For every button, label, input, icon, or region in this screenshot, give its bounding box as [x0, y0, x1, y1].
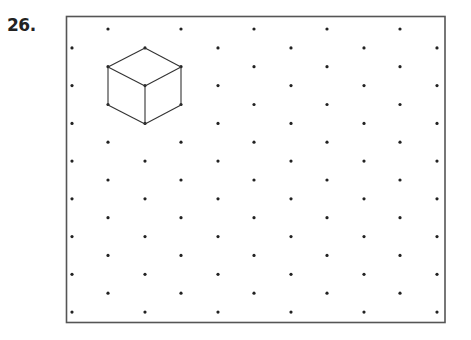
cube-edge	[145, 67, 181, 86]
grid-dot	[143, 311, 146, 314]
grid-dot	[70, 235, 73, 238]
grid-dot	[362, 46, 365, 49]
grid-dot	[216, 235, 219, 238]
grid-dot	[289, 273, 292, 276]
grid-dot	[289, 84, 292, 87]
grid-dot	[179, 292, 182, 295]
cube-edge	[145, 105, 181, 124]
grid-dot	[362, 84, 365, 87]
grid-dot	[252, 103, 255, 106]
grid-dot	[362, 235, 365, 238]
grid-dot	[70, 84, 73, 87]
grid-dot	[179, 141, 182, 144]
grid-dot	[435, 197, 438, 200]
grid-dot	[362, 160, 365, 163]
grid-dot	[143, 197, 146, 200]
grid-dot	[179, 27, 182, 30]
grid-dot	[398, 103, 401, 106]
grid-dot	[252, 141, 255, 144]
grid-dot	[70, 273, 73, 276]
grid-dot	[106, 254, 109, 257]
grid-dot	[289, 235, 292, 238]
grid-dot	[325, 103, 328, 106]
grid-dot	[325, 178, 328, 181]
grid-dot	[398, 292, 401, 295]
grid-dot	[289, 46, 292, 49]
grid-dot	[289, 160, 292, 163]
grid-dot	[216, 46, 219, 49]
grid-dot	[289, 311, 292, 314]
grid-dot	[252, 27, 255, 30]
grid-dot	[252, 292, 255, 295]
grid-dot	[325, 216, 328, 219]
grid-dot	[216, 197, 219, 200]
grid-dot	[398, 65, 401, 68]
grid-dot	[435, 273, 438, 276]
grid-dot	[252, 65, 255, 68]
grid-dot	[325, 27, 328, 30]
grid-dot	[362, 197, 365, 200]
isometric-dot-paper	[0, 0, 471, 340]
grid-dot	[70, 122, 73, 125]
cube-edge	[108, 105, 145, 124]
grid-dot	[216, 273, 219, 276]
cube-edge	[108, 48, 145, 67]
grid-dot	[179, 178, 182, 181]
grid-dot	[70, 197, 73, 200]
grid-dot	[289, 122, 292, 125]
grid-dot	[325, 254, 328, 257]
cube-edge	[145, 48, 181, 67]
grid-dot	[252, 254, 255, 257]
dot-grid	[70, 27, 438, 313]
grid-dot	[398, 27, 401, 30]
grid-dot	[216, 122, 219, 125]
grid-dot	[398, 254, 401, 257]
grid-dot	[216, 311, 219, 314]
grid-dot	[435, 311, 438, 314]
grid-dot	[143, 235, 146, 238]
grid-dot	[179, 216, 182, 219]
grid-dot	[398, 216, 401, 219]
grid-dot	[179, 254, 182, 257]
grid-dot	[435, 46, 438, 49]
grid-dot	[216, 84, 219, 87]
grid-dot	[435, 160, 438, 163]
grid-dot	[325, 141, 328, 144]
grid-dot	[216, 160, 219, 163]
grid-dot	[70, 46, 73, 49]
grid-dot	[362, 311, 365, 314]
grid-dot	[106, 292, 109, 295]
grid-dot	[106, 27, 109, 30]
grid-dot	[289, 197, 292, 200]
grid-dot	[435, 84, 438, 87]
grid-dot	[252, 216, 255, 219]
grid-dot	[398, 141, 401, 144]
grid-dot	[362, 273, 365, 276]
drawing-frame	[67, 17, 446, 323]
cube-edge	[108, 67, 145, 86]
grid-dot	[70, 311, 73, 314]
cube-drawing	[108, 48, 181, 124]
grid-dot	[106, 141, 109, 144]
grid-dot	[362, 122, 365, 125]
grid-dot	[435, 122, 438, 125]
grid-dot	[143, 160, 146, 163]
grid-dot	[325, 292, 328, 295]
grid-dot	[143, 273, 146, 276]
grid-dot	[435, 235, 438, 238]
grid-dot	[252, 178, 255, 181]
grid-dot	[70, 160, 73, 163]
grid-dot	[398, 178, 401, 181]
grid-dot	[106, 178, 109, 181]
grid-dot	[325, 65, 328, 68]
grid-dot	[106, 216, 109, 219]
